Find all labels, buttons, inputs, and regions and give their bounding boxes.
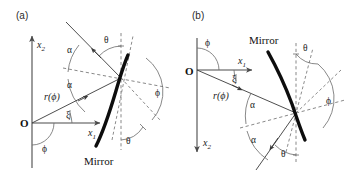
figure-svg: (a) x2 x1 O r(ϕ) ξ ϕ [0,0,353,176]
panel-b-theta-upper-arc [296,54,318,64]
panel-a-radial-label: r(ϕ) [44,91,60,103]
panel-a-angle-theta-upper: θ [104,35,109,45]
panel-a-origin-label: O [20,117,29,129]
panel-b-angle-theta-lower: θ [281,149,286,159]
panel-b-mirror-label: Mirror [249,34,279,46]
panel-b: (b) x2 x1 O ϕ r(ϕ) ξ [185,10,345,170]
panel-a-theta-lower-tick [140,124,146,130]
panel-b-incident-ray-arrow [232,85,240,89]
panel-a-axis-label-x2: x2 [36,39,45,53]
panel-a-label: (a) [16,10,28,21]
panel-b-angle-theta-upper: θ [303,43,308,53]
panel-b-label: (b) [192,10,204,21]
figure-canvas: (a) x2 x1 O r(ϕ) ξ ϕ [0,0,353,176]
panel-b-phi-origin-arc [197,48,219,70]
panel-a-reflected-ray-arrow [93,50,101,58]
panel-b-incident-extension-dashed [296,70,341,113]
panel-b-angle-alpha-upper: α [250,100,255,110]
panel-a-angle-phi-intersection: ϕ [155,88,160,98]
panel-a-theta-upper-arc [99,46,121,56]
panel-a-mirror-label: Mirror [84,155,114,167]
panel-b-angle-phi-intersection: ϕ [326,96,331,106]
panel-a-phi-origin-arc [32,123,54,145]
panel-a-incident-extension-dashed [121,78,160,120]
panel-b-origin-label: O [185,65,194,77]
panel-a-axis-label-x1: x1 [87,127,96,141]
panel-a-angle-phi-origin: ϕ [42,144,47,154]
panel-b-radial-label: r(ϕ) [213,90,229,102]
panel-a-angle-alpha-upper: α [67,45,72,55]
panel-a-theta-lower-arc [121,127,143,140]
panel-b-axis-label-x2: x2 [202,137,211,151]
panel-b-axis-label-x1: x1 [237,55,246,69]
panel-a-angle-alpha-lower: α [67,80,72,90]
panel-a: (a) x2 x1 O r(ϕ) ξ ϕ [16,10,170,168]
panel-b-angle-phi-origin: ϕ [205,38,210,48]
panel-b-angle-alpha-lower: α [251,135,256,145]
panel-a-angle-theta-lower: θ [126,136,131,146]
